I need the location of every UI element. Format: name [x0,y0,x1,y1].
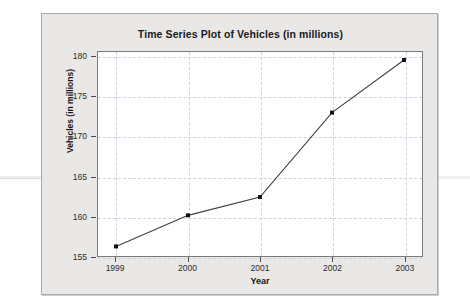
plot-area [97,51,423,257]
x-tick-mark-2002 [332,257,333,262]
y-tick-label-155: 155 [47,252,87,262]
data-point-2000 [186,213,190,217]
y-tick-mark-170 [91,136,96,137]
x-tick-mark-2003 [405,257,406,262]
x-tick-label-1999: 1999 [92,263,138,273]
x-tick-label-2000: 2000 [165,263,211,273]
y-axis-title: Vehicles (in millions) [65,41,75,181]
y-tick-mark-180 [91,56,96,57]
chart-title: Time Series Plot of Vehicles (in million… [42,28,439,40]
x-tick-mark-1999 [115,257,116,262]
x-tick-mark-2000 [188,257,189,262]
x-tick-label-2003: 2003 [382,263,428,273]
scan-artifact-edge [0,178,40,179]
y-tick-label-170: 170 [47,131,87,141]
y-tick-mark-175 [91,96,96,97]
series-polyline [116,60,404,246]
data-point-1999 [114,244,118,248]
chart-panel: Time Series Plot of Vehicles (in million… [41,13,438,295]
x-tick-label-2002: 2002 [309,263,355,273]
x-tick-label-2001: 2001 [237,263,283,273]
y-tick-label-175: 175 [47,91,87,101]
y-tick-label-165: 165 [47,172,87,182]
y-tick-label-160: 160 [47,212,87,222]
x-tick-mark-2001 [260,257,261,262]
x-axis-title: Year [97,276,423,286]
y-tick-mark-165 [91,177,96,178]
y-tick-mark-155 [91,257,96,258]
y-tick-label-180: 180 [47,51,87,61]
y-tick-mark-160 [91,217,96,218]
series-markers [114,58,406,248]
data-point-2002 [330,111,334,115]
series-line-vehicles [98,52,422,256]
data-point-2001 [258,195,262,199]
data-point-2003 [402,58,406,62]
